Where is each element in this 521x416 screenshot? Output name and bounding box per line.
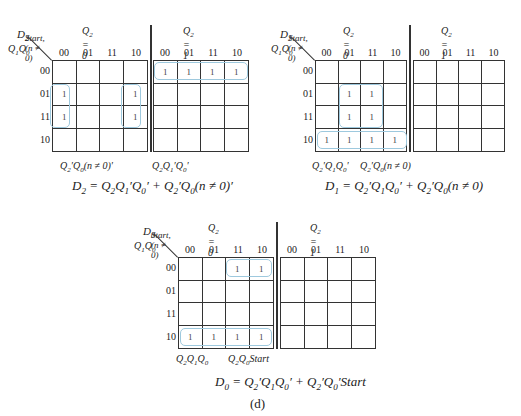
kmap-cell: [226, 303, 250, 326]
col-label: 11: [201, 47, 225, 58]
col-label: 10: [352, 244, 376, 255]
row-label: 01: [158, 285, 176, 296]
kmap-cell: [305, 303, 329, 326]
kmap-cell: [225, 129, 249, 152]
equation: D2 = Q2Q1′Q0′ + Q2′Q0(n ≠ 0)′: [72, 178, 233, 196]
kmap-cell: [328, 326, 352, 349]
kmap-cell: [226, 281, 250, 304]
term-label: Q2′Q1Q0′: [312, 160, 349, 174]
kmap-cell: [203, 303, 227, 326]
kmap-cell: [437, 61, 460, 84]
kmap-cell: [414, 129, 437, 152]
kmap-cell: [203, 258, 227, 281]
term-label: Q2′Q0(n ≠ 0)′: [60, 160, 113, 174]
kmap-cell: [124, 129, 148, 152]
kmap-cell: [77, 84, 101, 107]
input-label-left: Q1Q0: [8, 43, 29, 57]
kmap-cell: [178, 106, 202, 129]
col-label: 01: [76, 47, 100, 58]
grouping-loop: [226, 259, 272, 277]
kmap-cell: [281, 326, 305, 349]
row-label: 10: [295, 134, 313, 145]
kmap-cell: [352, 326, 376, 349]
kmap-cell: [414, 84, 437, 107]
kmap-cell: [179, 258, 203, 281]
col-label: 01: [177, 47, 201, 58]
kmap-cell: [250, 303, 274, 326]
kmap-cell: [305, 326, 329, 349]
kmap-cell: [482, 129, 505, 152]
kmap-cell: [281, 281, 305, 304]
col-label: 01: [338, 47, 361, 58]
term-label: Q2Q0Start: [228, 353, 269, 367]
row-label: 00: [32, 65, 50, 76]
kmap-cell: [201, 129, 225, 152]
term-label: Q2Q1′Q0′: [152, 160, 189, 174]
col-label: 11: [226, 244, 250, 255]
grouping-loop: [50, 84, 70, 128]
equation: D0 = Q2′Q1Q0′ + Q2′Q0′Start: [215, 374, 366, 392]
kmap-cell: [77, 129, 101, 152]
col-label: 00: [178, 244, 202, 255]
kmap-cell: [437, 129, 460, 152]
col-label: 00: [413, 47, 436, 58]
half-separator: [276, 222, 278, 349]
kmap-cell: [437, 84, 460, 107]
input-label-left: Q1Q0: [271, 43, 292, 57]
half-separator: [150, 25, 152, 152]
col-label: 00: [280, 244, 304, 255]
kmap-cell: [328, 281, 352, 304]
kmap-cell: [100, 106, 124, 129]
col-label: 10: [384, 47, 407, 58]
kmap-cell: [316, 61, 339, 84]
kmap-cell: [328, 258, 352, 281]
kmap-cell: [482, 106, 505, 129]
col-label: 01: [304, 244, 328, 255]
kmap-cell: [201, 106, 225, 129]
col-label: 10: [250, 244, 274, 255]
grouping-loop: [317, 131, 407, 149]
kmap-cell: [482, 84, 505, 107]
grouping-loop: [154, 62, 248, 80]
row-label: 01: [32, 88, 50, 99]
kmap-cell: [77, 106, 101, 129]
kmap-cell: [352, 303, 376, 326]
kmap-cell: [437, 106, 460, 129]
kmap-cell: [124, 61, 148, 84]
kmap-cell: [328, 303, 352, 326]
kmap-cell: [459, 84, 482, 107]
row-label: 00: [158, 262, 176, 273]
row-label: 01: [295, 88, 313, 99]
kmap-cell: [178, 84, 202, 107]
kmap-cell: [100, 129, 124, 152]
kmap-cell: [459, 129, 482, 152]
kmap-cell: [305, 258, 329, 281]
kmap-cell: [53, 129, 77, 152]
col-label: 10: [124, 47, 148, 58]
row-label: 10: [32, 134, 50, 145]
row-label: 11: [32, 111, 50, 122]
kmap-cell: [154, 106, 178, 129]
figure-caption: (d): [250, 396, 265, 412]
col-label: 01: [436, 47, 459, 58]
row-label: 11: [295, 111, 313, 122]
half-separator: [409, 25, 411, 152]
kmap-cell: [414, 61, 437, 84]
kmap-cell: [352, 258, 376, 281]
kmap-cell: [281, 258, 305, 281]
kmap-cell: [201, 84, 225, 107]
kmap-cell: [305, 281, 329, 304]
col-label: 11: [328, 244, 352, 255]
input-label-left: Q1Q0: [134, 240, 155, 254]
col-label: 11: [100, 47, 124, 58]
kmap-cell: [77, 61, 101, 84]
kmap-cell: [414, 106, 437, 129]
kmap-cell: [459, 106, 482, 129]
grouping-loop: [339, 84, 383, 128]
col-label: 11: [361, 47, 384, 58]
kmap-cell: [384, 84, 407, 107]
kmap-cell: [179, 303, 203, 326]
col-label: 00: [52, 47, 76, 58]
grouping-loop: [180, 328, 272, 346]
kmap-cell: [178, 129, 202, 152]
